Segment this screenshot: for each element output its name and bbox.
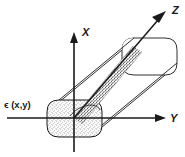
permittivity-label: ϵ (x,y)	[4, 99, 31, 110]
core-streak-edge-lower	[82, 52, 142, 124]
figure-canvas: X Y Z ϵ (x,y)	[0, 0, 185, 157]
axis-x-label: X	[81, 26, 90, 38]
waveguide-figure: X Y Z ϵ (x,y)	[0, 0, 185, 157]
waveguide-rod	[47, 30, 177, 140]
axis-y-arrowhead	[155, 114, 166, 122]
axis-z-arrowhead	[152, 11, 166, 23]
axis-z-label: Z	[171, 4, 180, 16]
axis-x-arrowhead	[70, 32, 78, 43]
axis-y-label: Y	[170, 112, 179, 124]
